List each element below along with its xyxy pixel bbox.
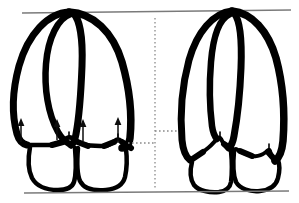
figure-root: [0, 0, 299, 203]
hoof-comparison-diagram: [0, 0, 299, 203]
left-wedge-3: [104, 142, 114, 146]
left-wedge-1: [52, 142, 63, 145]
